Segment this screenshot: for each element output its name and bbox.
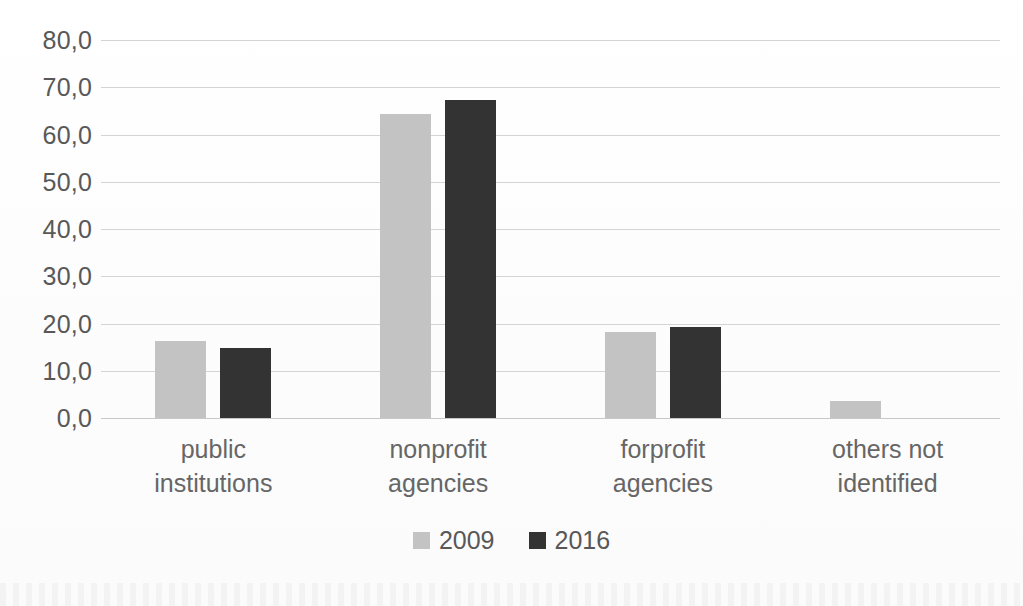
bar-2016-2[interactable] [670,327,721,418]
legend-item-2016[interactable]: 2016 [529,528,611,553]
y-axis-tick-label: 30,0 [0,264,92,289]
chart-legend: 20092016 [0,528,1023,553]
y-axis-tick-label: 0,0 [0,406,92,431]
y-axis-tick-label: 10,0 [0,358,92,383]
plot-area [101,40,1000,418]
y-axis-tick-label: 50,0 [0,169,92,194]
chart-page: 80,070,060,050,040,030,020,010,00,0 publ… [0,0,1023,606]
y-axis: 80,070,060,050,040,030,020,010,00,0 [0,0,92,606]
x-axis-category-labels: public institutionsnonprofit agenciesfor… [101,432,1000,512]
scan-artifact-strip [0,583,1023,606]
y-axis-tick-label: 70,0 [0,75,92,100]
legend-swatch-icon [529,532,546,549]
y-axis-tick-label: 80,0 [0,28,92,53]
legend-label: 2009 [439,528,495,553]
legend-label: 2016 [555,528,611,553]
y-axis-tick-label: 20,0 [0,311,92,336]
legend-swatch-icon [413,532,430,549]
bar-2009-2[interactable] [605,332,656,418]
x-axis-category-label: others not identified [775,432,1000,500]
bar-chart: 80,070,060,050,040,030,020,010,00,0 publ… [0,0,1023,606]
legend-item-2009[interactable]: 2009 [413,528,495,553]
x-axis-category-label: public institutions [101,432,326,500]
x-axis-category-label: nonprofit agencies [326,432,551,500]
bars-layer [101,40,1000,418]
bar-2016-0[interactable] [220,348,271,418]
y-axis-tick-label: 40,0 [0,217,92,242]
bar-2016-1[interactable] [445,100,496,418]
bar-2009-3[interactable] [830,401,881,418]
x-axis-category-label: forprofit agencies [551,432,776,500]
axis-baseline [101,418,1000,419]
y-axis-tick-label: 60,0 [0,122,92,147]
bar-2009-0[interactable] [155,341,206,418]
bar-2009-1[interactable] [380,114,431,418]
